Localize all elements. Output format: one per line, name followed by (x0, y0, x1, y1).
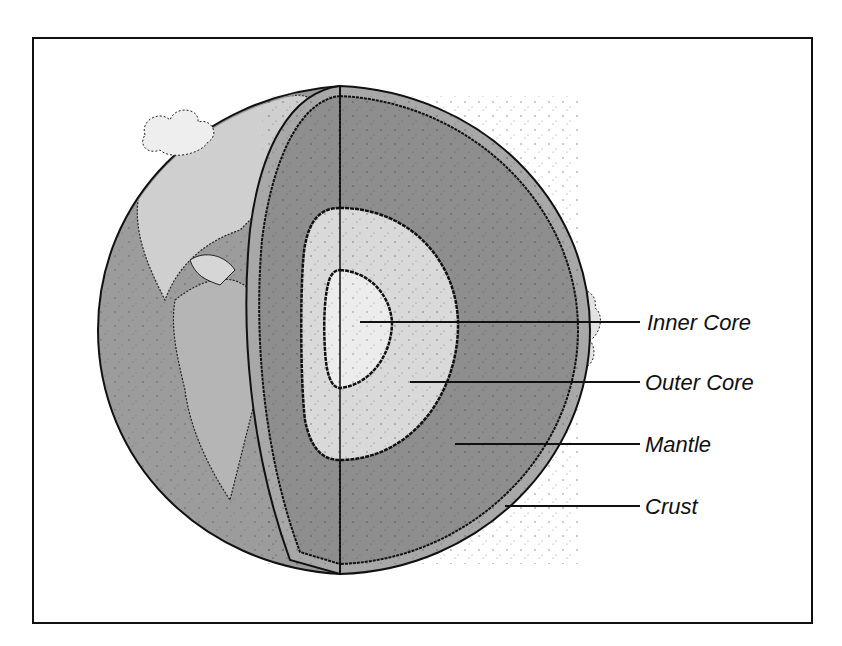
label-inner-core: Inner Core (647, 310, 751, 336)
label-mantle: Mantle (645, 432, 711, 458)
label-outer-core: Outer Core (645, 370, 754, 396)
label-crust: Crust (645, 494, 698, 520)
